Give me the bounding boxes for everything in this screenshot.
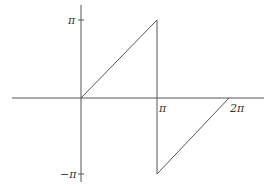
chart: π −π π 2π [0, 0, 269, 188]
sawtooth-rising-segment [81, 20, 157, 98]
y-label-neg-pi: −π [60, 168, 77, 181]
sawtooth-rising-segment-2 [157, 98, 229, 174]
y-label-pi: π [67, 14, 76, 27]
x-label-pi: π [158, 102, 167, 115]
x-label-2pi: 2π [229, 102, 245, 115]
